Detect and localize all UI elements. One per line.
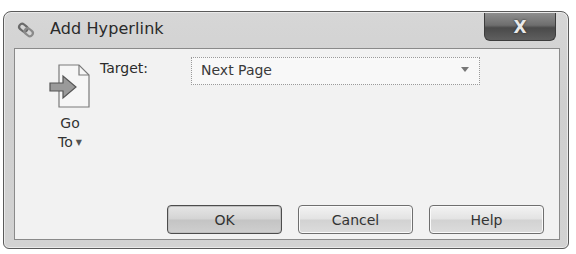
title-bar: Add Hyperlink X xyxy=(4,12,568,44)
go-to-label-line1: Go xyxy=(35,115,105,131)
target-label: Target: xyxy=(100,60,148,76)
hyperlink-chain-icon xyxy=(16,20,36,40)
dialog-content: Go To▼ Target: Next Page OK Cancel Help xyxy=(14,48,560,240)
cancel-button[interactable]: Cancel xyxy=(298,205,413,234)
go-to-label-line2: To▼ xyxy=(35,134,105,150)
close-button[interactable]: X xyxy=(484,13,556,41)
dropdown-caret-icon: ▼ xyxy=(76,138,82,147)
ok-button[interactable]: OK xyxy=(167,205,282,234)
target-selected-value: Next Page xyxy=(201,62,272,78)
go-to-label-text: To xyxy=(58,134,73,150)
help-button[interactable]: Help xyxy=(429,205,544,234)
go-to-button[interactable]: Go To▼ xyxy=(35,61,105,161)
dialog-title: Add Hyperlink xyxy=(50,19,164,38)
page-arrow-icon xyxy=(49,63,93,109)
add-hyperlink-dialog: Add Hyperlink X Go To▼ Target: Next Page xyxy=(3,11,569,249)
target-dropdown[interactable]: Next Page xyxy=(191,57,480,85)
close-icon: X xyxy=(513,17,526,37)
chevron-down-icon xyxy=(461,67,469,72)
